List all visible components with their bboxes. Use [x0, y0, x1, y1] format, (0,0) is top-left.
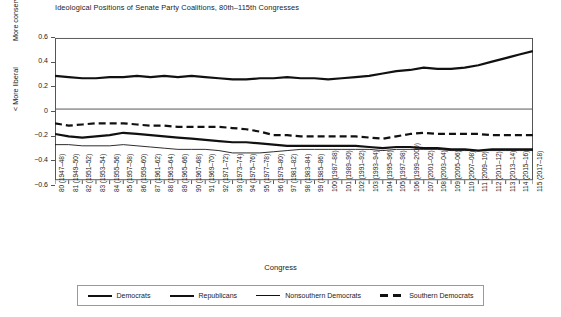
legend-swatch-thin-solid: [256, 292, 280, 300]
x-tick-label: 94 (1975–76): [249, 154, 256, 192]
x-tick-label: 115 (2017–18): [536, 151, 543, 192]
x-tick-label: 92 (1971–72): [222, 154, 229, 192]
x-tick-label: 107 (2001–02): [427, 150, 434, 192]
x-tick-label: 110 (2007–08): [468, 151, 475, 192]
x-tick-label: 98 (1983–84): [304, 154, 311, 192]
x-tick-label: 80 (1947–48): [58, 154, 65, 192]
legend-label: Democrats: [117, 292, 151, 299]
x-tick-label: 109 (2005–06): [454, 150, 461, 192]
x-tick-label: 102 (1991–92): [358, 150, 365, 192]
legend-item-democrats[interactable]: Democrats: [88, 292, 151, 300]
x-tick-label: 99 (1985–86): [317, 154, 324, 192]
x-tick-label: 85 (1957–58): [126, 154, 133, 192]
x-tick-label: 84 (1955–56): [113, 154, 120, 192]
x-tick-label: 91 (1969–70): [208, 154, 215, 192]
x-tick-label: 86 (1959–60): [140, 154, 147, 192]
x-tick-label: 103 (1993–94): [372, 150, 379, 192]
x-tick-label: 93 (1973–74): [236, 154, 243, 192]
x-tick-label: 106 (1999–2000): [413, 143, 420, 192]
x-tick-label: 83 (1953–54): [99, 154, 106, 192]
x-tick-label: 95 (1977–78): [263, 154, 270, 192]
legend-swatch-thick-solid: [170, 292, 194, 300]
x-tick-label: 88 (1963–64): [167, 154, 174, 192]
legend-swatch-dashed: [380, 292, 404, 300]
legend-label: Nonsouthern Democrats: [285, 292, 361, 299]
x-tick-label: 96 (1979–80): [277, 154, 284, 192]
chart-figure: Ideological Positions of Senate Party Co…: [0, 0, 561, 317]
legend-item-nonsouthern-democrats[interactable]: Nonsouthern Democrats: [256, 292, 361, 300]
legend-item-southern-democrats[interactable]: Southern Democrats: [380, 292, 473, 300]
x-axis-title: Congress: [0, 263, 561, 272]
chart-legend: DemocratsRepublicansNonsouthern Democrat…: [77, 285, 484, 306]
legend-label: Southern Democrats: [409, 292, 473, 299]
x-tick-label: 87 (1961–62): [154, 154, 161, 192]
legend-label: Republicans: [199, 292, 238, 299]
x-tick-label: 89 (1965–66): [181, 154, 188, 192]
x-tick-label: 104 (1995–96): [386, 150, 393, 192]
x-tick-label: 82 (1951–52): [85, 154, 92, 192]
x-tick-label: 81 (1949–50): [72, 154, 79, 192]
x-tick-label: 100 (1987–88): [331, 150, 338, 192]
x-tick-label: 105 (1997–98): [399, 150, 406, 192]
x-tick-label: 112 (2011–12): [495, 151, 502, 192]
x-tick-label: 114 (2015–16): [522, 151, 529, 192]
legend-swatch-thick-solid: [88, 292, 112, 300]
x-tick-label: 101 (1989–90): [345, 150, 352, 192]
x-tick-label: 90 (1967–68): [195, 154, 202, 192]
legend-item-republicans[interactable]: Republicans: [170, 292, 238, 300]
x-tick-label: 111 (2009–10): [481, 151, 488, 192]
x-tick-label: 97 (1981–82): [290, 154, 297, 192]
x-tick-label: 108 (2003–04): [440, 150, 447, 192]
x-tick-label: 113 (2013–14): [509, 151, 516, 192]
